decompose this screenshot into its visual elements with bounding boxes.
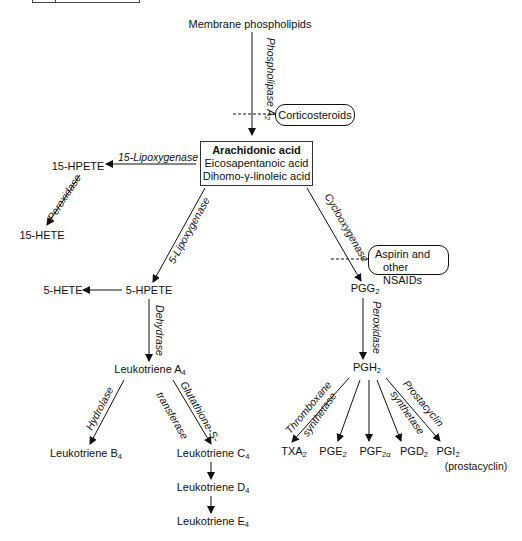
prostacyclin-note: (prostacyclin) [445, 460, 507, 472]
leukotriene-c4-node: Leukotriene C4 [177, 447, 250, 463]
5-hete-node: 5-HETE [43, 284, 82, 296]
pge-sub: 2 [343, 450, 347, 459]
phospholipase-text: Phospholipase A [265, 38, 277, 116]
lta-sub: 4 [182, 368, 186, 377]
pgg-sub: 2 [375, 287, 379, 296]
5-hpete-node: 5-HPETE [126, 284, 172, 296]
pgi-text: PGI [436, 445, 455, 457]
ltd-sub: 4 [245, 486, 249, 495]
phospholipase-a2-label: Phospholipase A2 [262, 38, 276, 120]
lta-text: Leukotriene A [114, 363, 181, 375]
peroxidase-right-label: Peroxidase [371, 301, 382, 354]
pge-text: PGE [319, 445, 342, 457]
leukotriene-b4-node: Leukotriene B4 [50, 447, 122, 463]
pgh-sub: 2 [377, 366, 381, 375]
pgf-sub: 2α [382, 450, 391, 459]
pgd-text: PGD [400, 445, 424, 457]
lte-text: Leukotriene E [177, 515, 245, 527]
pgh2-node: PGH2 [353, 361, 381, 377]
corticosteroids-text: Corticosteroids [278, 109, 351, 121]
pgf2a-node: PGF2α [359, 445, 390, 461]
aspirin-nsaids-inhibitor: Aspirin and other NSAIDs [368, 245, 449, 275]
txa-sub: 2 [303, 450, 307, 459]
membrane-phospholipids-node: Membrane phospholipids [189, 18, 312, 30]
15-hete-node: 15-HETE [19, 229, 64, 241]
15-lipoxygenase-label: 15-Lipoxygenase [118, 152, 198, 163]
txa2-node: TXA2 [281, 445, 307, 461]
pgg-text: PGG [351, 282, 375, 294]
pgg2-node: PGG2 [351, 282, 380, 298]
pgi2-node: PGI2 [436, 445, 459, 461]
txa-text: TXA [281, 445, 302, 457]
pgd2-node: PGD2 [400, 445, 428, 461]
leukotriene-a4-node: Leukotriene A4 [114, 363, 185, 379]
dihomo-linoleic-acid: Dihomo-γ-linoleic acid [201, 170, 312, 183]
leukotriene-d4-node: Leukotriene D4 [177, 481, 250, 497]
ltb-sub: 4 [118, 452, 122, 461]
arachidonic-acid-title: Arachidonic acid [201, 144, 312, 157]
leukotriene-e4-node: Leukotriene E4 [177, 515, 249, 531]
phospholipase-sub: 2 [264, 116, 271, 120]
pgf-text: PGF [359, 445, 382, 457]
arachidonic-acid-box: Arachidonic acid Eicosapentanoic acid Di… [200, 141, 313, 186]
ltd-text: Leukotriene D [177, 481, 246, 493]
ltc-text: Leukotriene C [177, 447, 246, 459]
pgd-sub: 2 [424, 450, 428, 459]
15-hpete-node: 15-HPETE [52, 160, 105, 172]
dehydrase-label: Dehydrase [154, 305, 165, 356]
pgh-text: PGH [353, 361, 377, 373]
eicosapentanoic-acid: Eicosapentanoic acid [201, 157, 312, 170]
pgi-sub: 2 [455, 450, 459, 459]
pge2-node: PGE2 [319, 445, 346, 461]
corticosteroids-inhibitor: Corticosteroids [275, 104, 355, 126]
aspirin-text: Aspirin and [375, 248, 448, 261]
nsaids-text: other NSAIDs [375, 261, 448, 287]
ltb-text: Leukotriene B [50, 447, 118, 459]
lte-sub: 4 [245, 520, 249, 529]
ltc-sub: 4 [245, 452, 249, 461]
